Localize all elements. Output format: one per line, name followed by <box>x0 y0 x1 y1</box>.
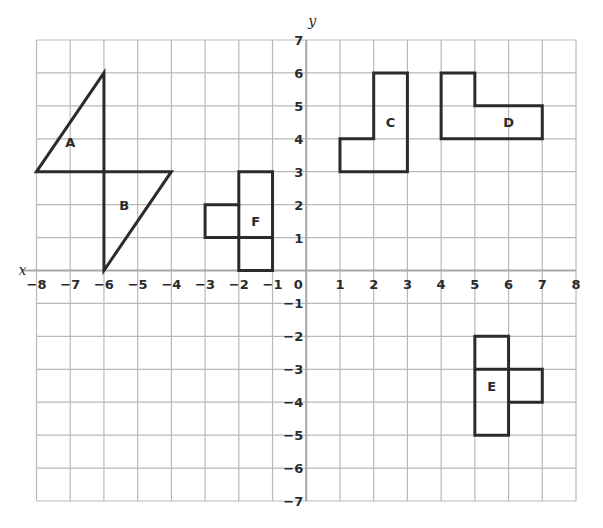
shapes: ABCDEF <box>37 73 543 435</box>
x-tick-label: −5 <box>128 277 148 292</box>
y-tick-label: 3 <box>294 165 303 180</box>
shape-label: D <box>503 115 514 130</box>
y-tick-label: −1 <box>283 296 303 311</box>
x-tick-label: 3 <box>403 277 412 292</box>
x-tick-label: 7 <box>538 277 547 292</box>
x-tick-label: −3 <box>195 277 215 292</box>
y-tick-label: 7 <box>294 33 303 48</box>
y-axis-label: y <box>307 13 317 29</box>
x-tick-label: 1 <box>335 277 344 292</box>
x-tick-label: −7 <box>60 277 80 292</box>
x-tick-label: −1 <box>263 277 283 292</box>
y-tick-label: 1 <box>294 231 303 246</box>
shape-label: F <box>251 214 260 229</box>
shape-label: A <box>65 135 75 150</box>
y-tick-label: −6 <box>283 461 303 476</box>
y-tick-label: −7 <box>283 494 303 509</box>
y-tick-label: 4 <box>294 132 303 147</box>
y-tick-label: −3 <box>283 362 303 377</box>
origin-label: 0 <box>294 277 303 292</box>
shape-label: B <box>119 198 129 213</box>
shape-e: E <box>475 336 542 435</box>
x-tick-label: 8 <box>571 277 580 292</box>
x-tick-label: 6 <box>504 277 513 292</box>
x-tick-label: −8 <box>27 277 47 292</box>
x-tick-label: −4 <box>161 277 181 292</box>
y-tick-label: −5 <box>283 428 303 443</box>
x-tick-label: 4 <box>437 277 446 292</box>
y-tick-label: 5 <box>294 99 303 114</box>
x-tick-label: 2 <box>369 277 378 292</box>
x-axis-label: x <box>19 262 27 278</box>
coordinate-plane: xy −8−7−6−5−4−3−2−11234567807654321−1−2−… <box>0 0 603 528</box>
shape-label: C <box>386 115 396 130</box>
y-tick-label: −2 <box>283 329 303 344</box>
x-tick-label: −6 <box>94 277 114 292</box>
shape-label: E <box>487 379 496 394</box>
y-tick-label: −4 <box>283 395 303 410</box>
x-tick-label: −2 <box>229 277 249 292</box>
shape-f: F <box>205 172 272 271</box>
y-tick-label: 2 <box>294 198 303 213</box>
x-tick-label: 5 <box>470 277 479 292</box>
y-tick-label: 6 <box>294 66 303 81</box>
